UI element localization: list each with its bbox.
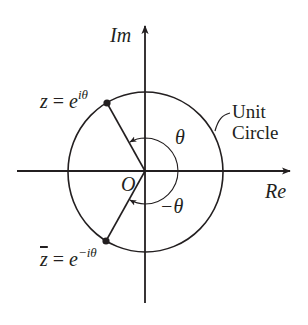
exponent: iθ [78,87,88,102]
z-equation-label: z = eiθ [40,90,88,113]
exponent: −iθ [78,245,97,260]
unit-circle-label-line1: Unit [232,101,278,122]
e-base: e [69,248,78,270]
origin-label: O [121,173,135,196]
unit-circle-diagram [0,0,308,325]
unit-circle-label: Unit Circle [232,101,278,143]
equals-sign: = [53,248,64,270]
point-zbar [102,237,109,244]
real-axis-label: Re [265,180,286,203]
zbar-equation-label: z = e−iθ [40,248,97,271]
equals-sign: = [53,90,64,112]
radius-z [107,103,145,171]
z-symbol: z [40,90,48,112]
e-base: e [69,90,78,112]
unit-circle-label-line2: Circle [232,122,278,143]
unit-circle-leader [215,113,230,131]
neg-theta-label: −θ [160,195,183,218]
zbar-symbol: z [40,248,48,270]
angle-arc-theta [130,138,178,171]
imaginary-axis-label: Im [110,24,131,47]
theta-label: θ [175,126,185,149]
point-z [103,99,110,106]
